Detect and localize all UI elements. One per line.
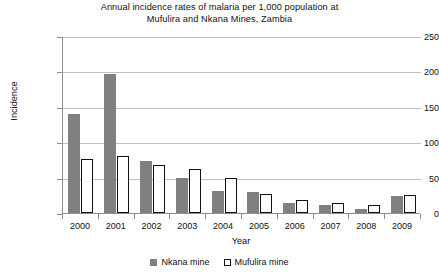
y-axis-title: Incidence <box>9 56 19 146</box>
x-tick-mark-10 <box>420 214 421 219</box>
chart-figure: Annual incidence rates of malaria per 1,… <box>0 0 439 278</box>
bar-nkana-2009 <box>391 196 403 213</box>
bar-nkana-2001 <box>104 74 116 213</box>
x-tick-label-2000: 2000 <box>60 221 100 231</box>
bar-mufulira-2008 <box>368 205 380 213</box>
x-tick-mark-5 <box>241 214 242 219</box>
legend-label-mufulira: Mufulira mine <box>235 258 289 267</box>
bar-group-2007 <box>314 36 350 213</box>
bar-group-2003 <box>170 36 206 213</box>
chart-legend: Nkana mine Mufulira mine <box>0 258 439 267</box>
bar-nkana-2008 <box>355 209 367 213</box>
chart-title-line-1: Annual incidence rates of malaria per 1,… <box>0 2 439 14</box>
x-tick-mark-2 <box>134 214 135 219</box>
x-tick-mark-3 <box>169 214 170 219</box>
bar-mufulira-2004 <box>225 178 237 213</box>
x-tick-label-2002: 2002 <box>132 221 172 231</box>
x-tick-mark-8 <box>348 214 349 219</box>
legend-entry-mufulira: Mufulira mine <box>224 258 289 267</box>
bar-group-2009 <box>385 36 421 213</box>
x-tick-label-2007: 2007 <box>311 221 351 231</box>
x-tick-mark-1 <box>98 214 99 219</box>
bar-nkana-2006 <box>283 203 295 213</box>
chart-title-line-2: Mufulira and Nkana Mines, Zambia <box>0 14 439 26</box>
bar-nkana-2004 <box>212 191 224 213</box>
bar-group-2000 <box>63 36 99 213</box>
bar-mufulira-2000 <box>81 159 93 213</box>
x-tick-mark-9 <box>384 214 385 219</box>
legend-entry-nkana: Nkana mine <box>150 258 209 267</box>
x-tick-mark-4 <box>205 214 206 219</box>
x-tick-label-2001: 2001 <box>96 221 136 231</box>
bar-mufulira-2007 <box>332 203 344 213</box>
bar-group-2006 <box>278 36 314 213</box>
chart-title: Annual incidence rates of malaria per 1,… <box>0 2 439 25</box>
plot-area <box>62 37 420 214</box>
x-tick-label-2006: 2006 <box>275 221 315 231</box>
x-axis-title: Year <box>62 236 420 246</box>
legend-label-nkana: Nkana mine <box>161 258 209 267</box>
bar-group-2005 <box>242 36 278 213</box>
bar-nkana-2003 <box>176 178 188 213</box>
x-tick-label-2004: 2004 <box>203 221 243 231</box>
x-tick-mark-6 <box>277 214 278 219</box>
legend-swatch-icon-mufulira <box>224 259 231 266</box>
bar-mufulira-2005 <box>260 194 272 213</box>
bar-group-2008 <box>349 36 385 213</box>
bar-mufulira-2009 <box>404 195 416 213</box>
legend-swatch-icon-nkana <box>150 259 157 266</box>
x-tick-mark-7 <box>313 214 314 219</box>
bar-nkana-2002 <box>140 161 152 213</box>
bar-mufulira-2003 <box>189 169 201 213</box>
bar-mufulira-2001 <box>117 156 129 213</box>
bar-group-2001 <box>99 36 135 213</box>
x-tick-mark-0 <box>62 214 63 219</box>
x-tick-label-2008: 2008 <box>346 221 386 231</box>
x-tick-label-2009: 2009 <box>382 221 422 231</box>
bar-group-2002 <box>135 36 171 213</box>
bar-nkana-2005 <box>247 192 259 213</box>
x-tick-label-2003: 2003 <box>167 221 207 231</box>
bar-nkana-2007 <box>319 205 331 213</box>
bar-mufulira-2006 <box>296 200 308 213</box>
bar-group-2004 <box>206 36 242 213</box>
bar-nkana-2000 <box>68 114 80 213</box>
bar-mufulira-2002 <box>153 165 165 213</box>
x-tick-label-2005: 2005 <box>239 221 279 231</box>
